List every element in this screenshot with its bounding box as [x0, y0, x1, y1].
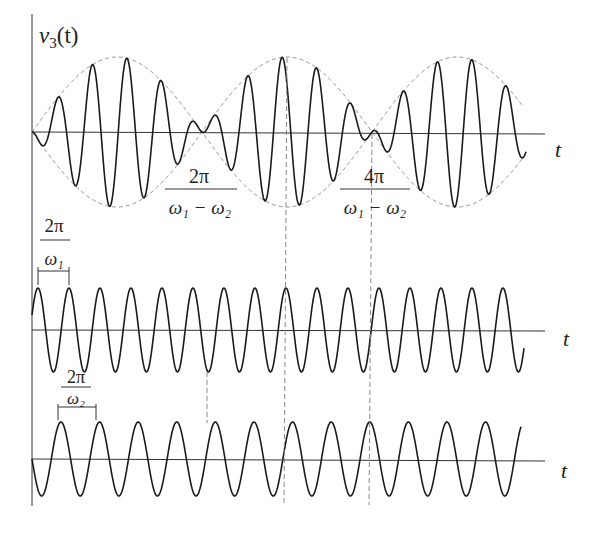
top-t-axis — [32, 132, 545, 134]
middle-t-label: t — [563, 326, 570, 351]
svg-text:ω₁: ω₁ — [45, 249, 64, 269]
annotation-2pi-over-diff: 2π ω₁ − ω₂ — [165, 165, 237, 218]
top-t-label: t — [555, 137, 562, 162]
svg-text:2π: 2π — [67, 367, 85, 387]
svg-text:ω₁ − ω₂: ω₁ − ω₂ — [344, 197, 407, 218]
svg-text:2π: 2π — [189, 165, 209, 187]
period-label-omega2: 2π ω₂ — [58, 367, 96, 420]
period-label-omega1: 2π ω₁ — [38, 215, 70, 285]
middle-t-axis — [32, 330, 545, 331]
bottom-t-label: t — [561, 458, 568, 483]
annotation-4pi-over-diff: 4π ω₁ − ω₂ — [340, 165, 410, 218]
y-axis-label: v3(t) — [39, 23, 78, 51]
svg-text:ω₂: ω₂ — [67, 389, 85, 408]
svg-text:4π: 4π — [364, 165, 384, 187]
align-dashed-line-3 — [369, 134, 372, 505]
svg-text:ω₁ − ω₂: ω₁ − ω₂ — [169, 197, 232, 218]
beat-figure: v3(t) t t t 2π ω₁ − ω₂ 4π ω₁ − ω₂ 2π ω₁ … — [0, 0, 603, 533]
svg-text:2π: 2π — [44, 215, 64, 236]
